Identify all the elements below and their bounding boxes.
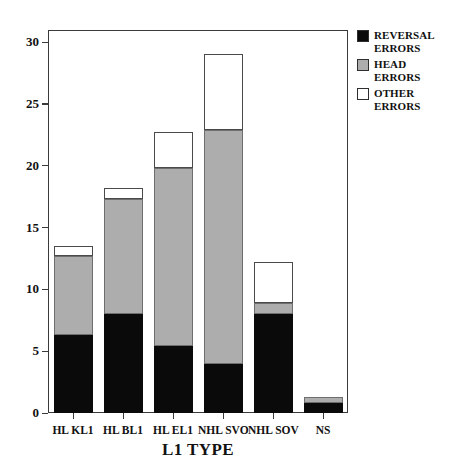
x-axis-title: L1 TYPE — [48, 440, 348, 460]
x-axis-label-nhl-svo: NHL SVO — [198, 423, 248, 438]
other-errors-swatch — [357, 88, 369, 100]
bar-segment-head-errors — [54, 256, 93, 335]
bar-segment-head-errors — [304, 397, 343, 403]
chart-legend: REVERSAL ERRORSHEAD ERRORSOTHER ERRORS — [357, 29, 453, 116]
bar-segment-head-errors — [204, 130, 243, 364]
bar-hl-bl1 — [104, 188, 143, 413]
x-tick-mark — [223, 413, 224, 419]
bar-segment-other-errors — [204, 54, 243, 129]
y-tick-mark — [42, 103, 48, 104]
x-axis-label-nhl-sov: NHL SOV — [248, 423, 298, 438]
bar-segment-reversal-errors — [104, 314, 143, 413]
y-tick-mark — [42, 227, 48, 228]
bar-segment-head-errors — [154, 168, 193, 346]
x-axis-label-hl-bl1: HL BL1 — [98, 423, 148, 438]
bar-segment-other-errors — [254, 262, 293, 303]
head-errors-swatch — [357, 59, 369, 71]
legend-item-head-errors: HEAD ERRORS — [357, 58, 453, 83]
legend-label: OTHER ERRORS — [374, 87, 453, 112]
bar-nhl-svo — [204, 54, 243, 413]
x-tick-mark — [323, 413, 324, 419]
bar-segment-reversal-errors — [254, 314, 293, 413]
plot-area — [48, 30, 348, 413]
y-tick-label: 15 — [26, 219, 39, 237]
bar-segment-other-errors — [54, 246, 93, 256]
bar-segment-reversal-errors — [304, 403, 343, 413]
legend-item-other-errors: OTHER ERRORS — [357, 87, 453, 112]
legend-label: HEAD ERRORS — [374, 58, 453, 83]
y-tick-label: 0 — [33, 404, 40, 422]
x-axis-label-hl-kl1: HL KL1 — [48, 423, 98, 438]
y-tick-mark — [42, 289, 48, 290]
x-tick-mark — [73, 413, 74, 419]
stacked-bar-chart-figure: 302520151050 HL KL1HL BL1HL EL1NHL SVONH… — [0, 0, 455, 469]
bar-segment-other-errors — [154, 132, 193, 168]
y-tick-label: 5 — [33, 342, 40, 360]
bar-segment-other-errors — [104, 188, 143, 199]
x-axis-label-hl-el1: HL EL1 — [148, 423, 198, 438]
x-axis-label-ns: NS — [298, 423, 348, 438]
x-tick-mark — [273, 413, 274, 419]
y-tick-label: 25 — [26, 95, 39, 113]
y-tick-mark — [42, 413, 48, 414]
bar-hl-el1 — [154, 132, 193, 413]
y-tick-mark — [42, 165, 48, 166]
bar-segment-reversal-errors — [204, 364, 243, 413]
x-tick-mark — [123, 413, 124, 419]
y-tick-label: 10 — [26, 280, 39, 298]
y-tick-label: 20 — [26, 157, 39, 175]
bar-nhl-sov — [254, 262, 293, 413]
bar-hl-kl1 — [54, 246, 93, 413]
x-tick-mark — [173, 413, 174, 419]
bar-segment-reversal-errors — [54, 335, 93, 413]
y-tick-mark — [42, 351, 48, 352]
legend-item-reversal-errors: REVERSAL ERRORS — [357, 29, 453, 54]
legend-label: REVERSAL ERRORS — [374, 29, 435, 54]
y-tick-mark — [42, 42, 48, 43]
bar-ns — [304, 397, 343, 413]
bar-segment-head-errors — [104, 199, 143, 314]
y-tick-label: 30 — [26, 33, 39, 51]
bar-segment-head-errors — [254, 303, 293, 314]
bar-segment-reversal-errors — [154, 346, 193, 413]
reversal-errors-swatch — [357, 30, 369, 42]
